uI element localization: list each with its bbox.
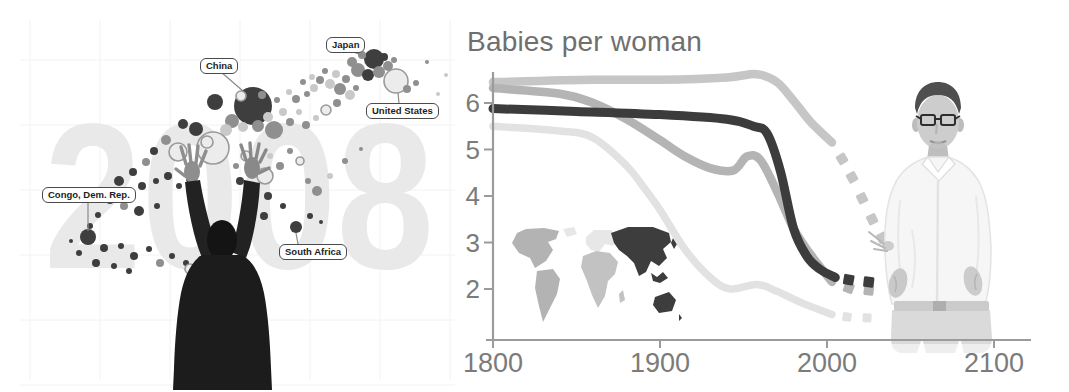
y-tick-label: 3 [466,228,480,258]
country-bubble [296,157,304,165]
country-bubble [332,70,340,78]
country-bubble [154,203,160,209]
map-new-zealand [679,314,682,321]
face [917,95,959,149]
country-bubble [286,118,294,126]
map-asia [611,227,671,276]
country-bubble [345,90,355,100]
country-bubble [207,94,223,110]
map-south-america [535,269,560,322]
country-bubble [69,239,73,243]
country-bubble [302,121,310,129]
country-bubble [92,259,100,267]
country-bubble [236,91,246,101]
country-bubble [292,95,300,103]
country-bubble [327,173,333,179]
country-bubble [134,206,144,216]
map-americas [512,228,559,268]
map-greenland [563,227,577,237]
country-label-south-africa: South Africa [279,244,347,260]
country-bubble [252,120,264,132]
chin-stubble [929,142,947,152]
country-bubble [425,60,429,64]
country-bubble [309,74,315,80]
map-africa [581,251,618,308]
nose [936,124,937,134]
country-bubble [319,220,323,224]
map-madagascar [619,290,625,303]
projection-dash-africa [835,152,849,166]
country-bubble [176,183,182,189]
country-bubble [161,135,171,145]
country-bubble [444,73,448,77]
presenter-figure [869,82,994,358]
country-bubble [322,68,328,74]
projection-dash-africa [865,213,878,226]
x-tick-label: 1800 [463,348,523,378]
country-bubble [279,108,287,116]
country-label-congo-dem-rep: Congo, Dem. Rep. [42,187,136,203]
country-bubble [95,212,101,218]
country-label-japan: Japan [326,37,365,53]
belt-buckle [933,301,946,311]
projection-dash-africa [855,192,868,205]
torso [173,255,272,390]
country-bubble [111,263,117,269]
x-tick-label: 1900 [630,348,690,378]
country-bubble [164,172,172,180]
country-bubble [100,244,108,252]
country-bubble [313,115,319,121]
page: 2008 JapanChinaUnited StatesCongo, Dem. … [0,0,1069,392]
country-bubble [300,79,306,85]
country-bubble [307,213,313,219]
country-bubble [325,79,335,89]
y-tick-label: 2 [466,274,480,304]
country-bubble [413,80,419,86]
projection-dash-asia [843,274,855,286]
country-bubble [114,176,124,186]
world-map-inset [512,227,682,322]
country-bubble [258,91,266,99]
country-bubble [359,147,363,151]
country-bubble [126,268,132,274]
country-bubble [287,148,293,154]
map-australia [653,292,676,313]
country-bubble [201,136,213,148]
country-bubble [265,121,283,139]
bubble-chart-photo: 2008 JapanChinaUnited StatesCongo, Dem. … [0,0,460,392]
projection-dash-europe [842,312,852,322]
country-bubble [156,259,164,267]
country-bubble [130,252,138,260]
country-bubble [238,122,248,132]
country-bubble [236,177,244,185]
country-bubble [333,99,341,107]
country-bubble [169,253,175,259]
country-bubble [264,192,272,200]
country-bubble [380,53,388,61]
country-bubble [260,212,268,220]
country-bubble [138,182,146,190]
country-bubble [305,178,311,184]
y-tick-label: 5 [466,135,480,165]
x-tick-label: 2000 [797,348,857,378]
country-bubble [304,91,310,97]
y-tick-label: 6 [466,88,480,118]
country-bubble [362,69,374,81]
country-bubble [391,57,397,63]
country-bubble [118,243,124,249]
country-bubble [150,147,158,155]
projection-dash-asia [863,276,875,288]
country-bubble [342,158,348,164]
country-bubble [142,158,150,166]
country-bubble [267,153,273,159]
y-tick-label: 4 [466,181,480,211]
country-label-united-states: United States [366,103,439,119]
country-bubble [233,163,239,169]
line-chart-svg: 654321800190020002100 [460,0,1069,392]
projection-dash-europe [862,313,871,322]
country-bubble [80,229,96,245]
country-bubble [290,221,302,233]
country-bubble [274,97,280,103]
country-bubble [178,119,188,129]
country-bubble [286,89,292,95]
